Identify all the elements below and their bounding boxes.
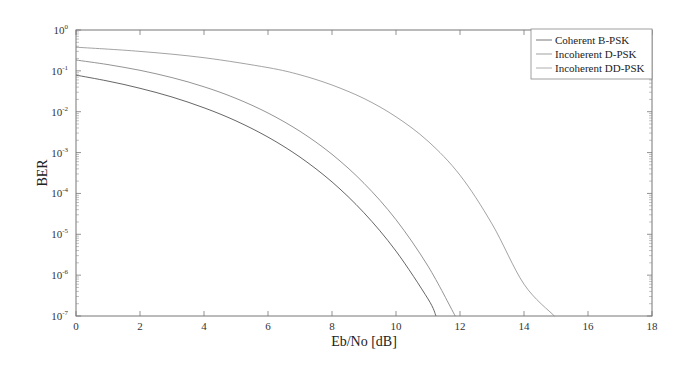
x-tick-label: 0 (73, 320, 79, 332)
x-tick-label: 18 (647, 320, 659, 332)
curves (76, 47, 554, 316)
y-tick-label: 10-2 (51, 105, 68, 118)
x-axis-title: Eb/No [dB] (331, 334, 397, 349)
ber-chart: 024681012141618 10010-110-210-310-410-51… (0, 0, 688, 368)
y-tick-label: 10-6 (51, 268, 68, 281)
y-tick-label: 10-1 (51, 64, 68, 77)
y-tick-label: 10-4 (51, 186, 68, 199)
y-tick-label: 10-5 (51, 227, 68, 240)
x-tick-label: 10 (391, 320, 403, 332)
x-tick-label: 16 (583, 320, 595, 332)
legend-label-coherent-bpsk: Coherent B-PSK (555, 34, 629, 46)
y-axis-title: BER (35, 159, 50, 187)
curve-incoherent-dd-psk (76, 47, 554, 316)
x-tick-label: 14 (519, 320, 531, 332)
y-tick-label: 10-3 (51, 146, 68, 159)
legend: Coherent B-PSK Incoherent D-PSK Incohere… (531, 29, 652, 79)
curve-coherent-b-psk (76, 75, 436, 316)
x-tick-label: 6 (265, 320, 271, 332)
y-tick-label: 100 (54, 23, 69, 36)
legend-label-incoherent-ddpsk: Incoherent DD-PSK (555, 62, 645, 74)
y-tick-label: 10-7 (51, 309, 68, 322)
x-tick-label: 4 (201, 320, 207, 332)
curve-incoherent-d-psk (76, 60, 455, 316)
x-tick-label: 8 (329, 320, 335, 332)
x-tick-label: 12 (455, 320, 466, 332)
x-tick-labels: 024681012141618 (73, 320, 658, 332)
legend-label-incoherent-dpsk: Incoherent D-PSK (555, 48, 637, 60)
x-tick-label: 2 (137, 320, 143, 332)
y-tick-labels: 10010-110-210-310-410-510-610-7 (51, 23, 68, 322)
